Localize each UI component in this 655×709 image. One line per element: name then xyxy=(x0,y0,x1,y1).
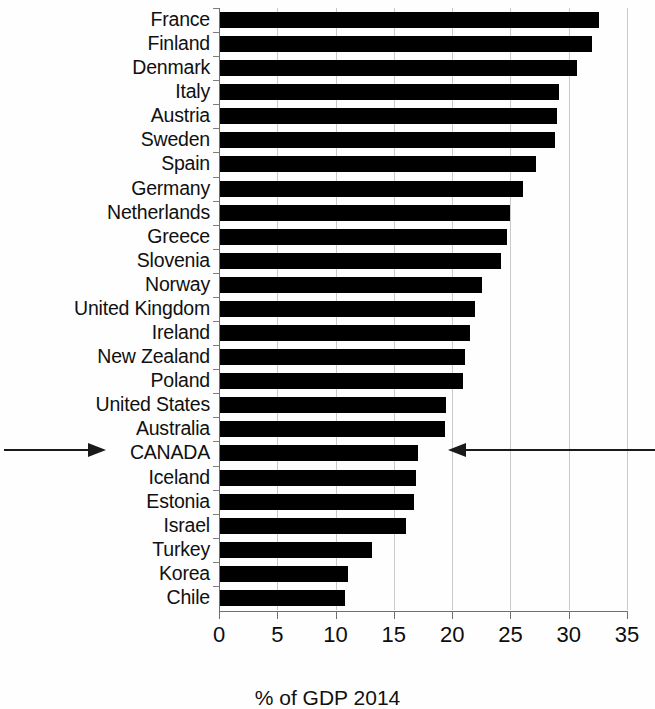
x-axis-tick-label: 25 xyxy=(498,622,522,648)
bar-row: Netherlands xyxy=(219,201,627,225)
bar xyxy=(219,470,416,486)
bar-row: New Zealand xyxy=(219,345,627,369)
bar xyxy=(219,229,507,245)
x-axis-tick xyxy=(394,611,395,619)
x-axis-tick-label: 35 xyxy=(615,622,639,648)
x-axis-tick xyxy=(336,611,337,619)
category-label: Ireland xyxy=(152,320,210,344)
bar xyxy=(219,373,463,389)
x-axis-line xyxy=(219,611,628,612)
x-axis-tick-label: 5 xyxy=(271,622,283,648)
x-axis-tick xyxy=(510,611,511,619)
category-label: Greece xyxy=(147,224,210,248)
category-label: Germany xyxy=(131,176,210,200)
bar-row: Italy xyxy=(219,80,627,104)
bar-row: Denmark xyxy=(219,56,627,80)
bar-row: United Kingdom xyxy=(219,297,627,321)
bar xyxy=(219,325,470,341)
category-label: Iceland xyxy=(149,465,210,489)
bar xyxy=(219,494,414,510)
category-label: Israel xyxy=(164,513,210,537)
x-axis-tick xyxy=(277,611,278,619)
x-axis-tick xyxy=(627,611,628,619)
category-label: Poland xyxy=(150,368,210,392)
bar-row: Iceland xyxy=(219,466,627,490)
bar-row: Chile xyxy=(219,586,627,610)
category-label: Austria xyxy=(151,103,210,127)
bar-row: Spain xyxy=(219,152,627,176)
bar-rows: FranceFinlandDenmarkItalyAustriaSwedenSp… xyxy=(219,8,627,610)
x-axis-tick-label: 10 xyxy=(323,622,347,648)
bar-row: Israel xyxy=(219,514,627,538)
bar-row: Finland xyxy=(219,32,627,56)
bar xyxy=(219,542,372,558)
bar-row: Greece xyxy=(219,225,627,249)
bar xyxy=(219,181,523,197)
bar-chart: FranceFinlandDenmarkItalyAustriaSwedenSp… xyxy=(0,0,655,709)
category-label: Denmark xyxy=(132,55,210,79)
x-axis-tick-label: 20 xyxy=(440,622,464,648)
category-label: Estonia xyxy=(146,489,210,513)
bar xyxy=(219,445,418,461)
bar xyxy=(219,60,577,76)
x-axis-tick-label: 30 xyxy=(556,622,580,648)
category-label: Netherlands xyxy=(107,200,210,224)
x-axis-tick-label: 15 xyxy=(382,622,406,648)
bar-row: Norway xyxy=(219,273,627,297)
category-label: Australia xyxy=(136,416,210,440)
category-label: Italy xyxy=(175,79,210,103)
bar-row: Estonia xyxy=(219,490,627,514)
bar xyxy=(219,108,557,124)
category-label: Spain xyxy=(161,151,210,175)
y-axis-line xyxy=(219,8,220,612)
left-pointer-arrow-icon xyxy=(4,440,108,460)
bar-row: Slovenia xyxy=(219,249,627,273)
bar-row: United States xyxy=(219,393,627,417)
bar xyxy=(219,301,475,317)
bar-row: Australia xyxy=(219,417,627,441)
category-label: Sweden xyxy=(141,127,210,151)
arrow-head xyxy=(88,443,106,457)
bar xyxy=(219,36,592,52)
chart-caption: % of GDP 2014 xyxy=(0,686,655,709)
bar-row: Austria xyxy=(219,104,627,128)
plot-area: FranceFinlandDenmarkItalyAustriaSwedenSp… xyxy=(219,8,627,610)
category-label: Norway xyxy=(145,272,210,296)
category-label: France xyxy=(151,7,211,31)
arrow-head xyxy=(448,443,466,457)
x-axis-tick xyxy=(219,611,220,619)
bar-row: Sweden xyxy=(219,128,627,152)
bar xyxy=(219,349,465,365)
category-label: Turkey xyxy=(152,537,210,561)
x-axis-tick xyxy=(452,611,453,619)
bar xyxy=(219,421,445,437)
category-label: United Kingdom xyxy=(74,296,210,320)
bar-row: France xyxy=(219,8,627,32)
category-label: United States xyxy=(96,392,210,416)
arrow-shaft xyxy=(4,449,92,451)
bar xyxy=(219,590,345,606)
bar-row: Korea xyxy=(219,562,627,586)
bar-row: Poland xyxy=(219,369,627,393)
bar xyxy=(219,253,501,269)
bar-row: Germany xyxy=(219,177,627,201)
bar xyxy=(219,518,406,534)
bar xyxy=(219,84,559,100)
x-axis-tick-label: 0 xyxy=(213,622,225,648)
category-label: Chile xyxy=(167,585,210,609)
bar xyxy=(219,12,599,28)
bar xyxy=(219,156,536,172)
bar-row: Ireland xyxy=(219,321,627,345)
category-label: New Zealand xyxy=(97,344,210,368)
arrow-shaft xyxy=(466,449,655,451)
bar xyxy=(219,397,446,413)
bar xyxy=(219,132,555,148)
x-axis-tick xyxy=(569,611,570,619)
category-label: CANADA xyxy=(130,440,210,464)
right-pointer-arrow-icon xyxy=(448,440,655,460)
bar xyxy=(219,277,482,293)
gridline-35 xyxy=(627,8,628,610)
category-label: Finland xyxy=(147,31,210,55)
bar xyxy=(219,205,510,221)
bar xyxy=(219,566,348,582)
